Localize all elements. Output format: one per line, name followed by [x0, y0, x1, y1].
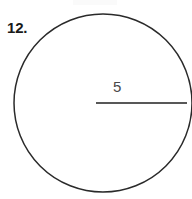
radius-measure-label: 5 — [113, 79, 121, 95]
problem-number: 12. — [7, 20, 27, 36]
circle-diagram — [0, 0, 192, 199]
geometry-figure: 12. 5 — [0, 0, 192, 199]
